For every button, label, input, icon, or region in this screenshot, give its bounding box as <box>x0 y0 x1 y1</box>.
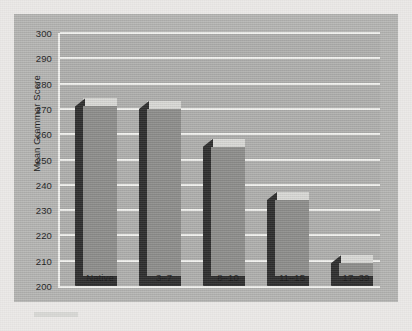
bar-front-face <box>211 147 245 286</box>
x-tick-label-3-7: 3–7 <box>156 272 172 283</box>
x-tick-label-8-10: 8–10 <box>217 272 239 283</box>
y-tick-label-260: 260 <box>18 129 52 140</box>
bar-front-face <box>147 109 181 286</box>
y-tick-label-240: 240 <box>18 179 52 190</box>
bar-3-7 <box>139 101 181 286</box>
scanned-page: Mean Grammar Score Age of Arrival 200210… <box>0 0 412 331</box>
y-tick-label-290: 290 <box>18 53 52 64</box>
y-tick-label-280: 280 <box>18 78 52 89</box>
y-tick-label-270: 270 <box>18 103 52 114</box>
gridline-290 <box>60 57 380 59</box>
y-tick-label-200: 200 <box>18 281 52 292</box>
y-tick-label-220: 220 <box>18 230 52 241</box>
scan-artifact <box>34 312 78 317</box>
x-tick-label-17-39: 17–39 <box>343 272 370 283</box>
bar-8-10 <box>203 139 245 286</box>
plot-area <box>60 33 380 286</box>
gridline-300 <box>60 32 380 34</box>
x-tick-label-11-15: 11–15 <box>279 272 305 283</box>
y-tick-label-210: 210 <box>18 255 52 266</box>
gridline-280 <box>60 83 380 85</box>
y-tick-label-230: 230 <box>18 205 52 216</box>
x-tick-label-native: Native <box>86 272 114 283</box>
figure-panel: Mean Grammar Score Age of Arrival 200210… <box>14 14 398 302</box>
bar-native <box>75 98 117 286</box>
y-tick-label-300: 300 <box>18 28 52 39</box>
bar-front-face <box>83 106 117 286</box>
y-tick-label-250: 250 <box>18 154 52 165</box>
